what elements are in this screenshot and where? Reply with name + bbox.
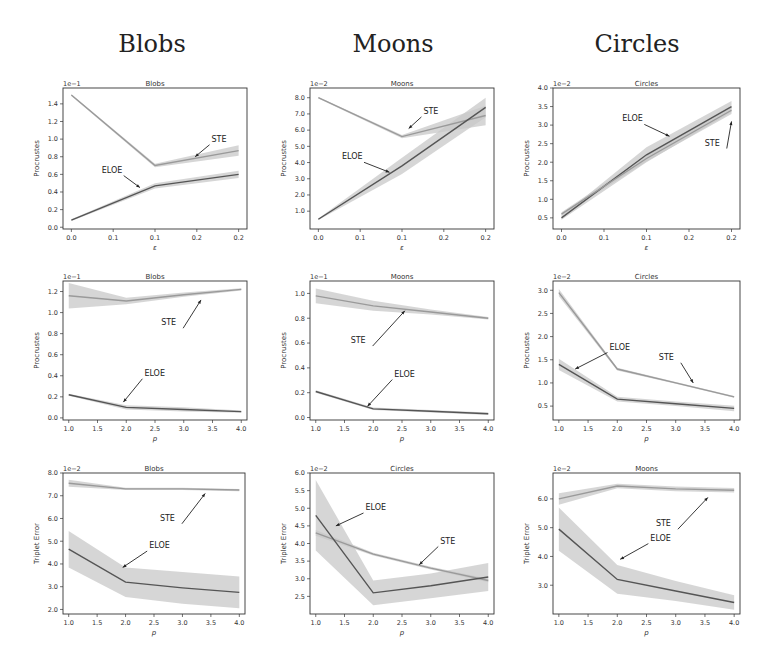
annotation-label-eloe: ELOE	[149, 541, 170, 550]
y-tick-label: 1.5	[538, 177, 548, 185]
y-tick-label: 6.0	[48, 515, 58, 523]
axis-offset-label: 1e−2	[310, 80, 328, 88]
series-line-ste	[71, 95, 238, 166]
x-tick-label: 2.5	[149, 619, 159, 627]
annotation-label-eloe: ELOE	[144, 369, 165, 378]
series-line-eloe	[559, 364, 734, 408]
confidence-band-eloe	[316, 390, 489, 415]
subplot-title: Blobs	[145, 273, 164, 281]
annotation-label-ste: STE	[705, 139, 720, 148]
y-axis-label: Procrustes	[33, 140, 41, 177]
axis-offset-label: 1e−2	[310, 465, 328, 473]
annotation-arrow	[575, 353, 607, 369]
x-tick-label: 2.0	[368, 425, 378, 433]
x-tick-label: 1.0	[311, 619, 321, 627]
axis-offset-label: 1e−2	[553, 273, 571, 281]
figure-grid: Blobs Moons Circles STEELOE0.00.10.10.20…	[0, 0, 781, 666]
x-tick-label: 0.0	[313, 234, 323, 242]
x-tick-label: 0.2	[439, 234, 449, 242]
y-axis-label: Procrustes	[523, 332, 531, 369]
confidence-band-eloe	[559, 359, 734, 411]
x-tick-label: 2.0	[612, 619, 622, 627]
x-tick-label: 3.0	[671, 619, 681, 627]
x-tick-label: 1.5	[92, 619, 102, 627]
y-tick-label: 0.4	[295, 364, 305, 372]
y-tick-label: 5.0	[48, 538, 58, 546]
y-tick-label: 3.5	[295, 557, 305, 565]
plot-area	[316, 480, 489, 605]
x-tick-label: 2.5	[641, 619, 651, 627]
y-tick-label: 3.0	[295, 575, 305, 583]
series-line-eloe	[69, 395, 242, 412]
x-tick-label: 4.0	[234, 619, 244, 627]
annotation-arrow	[368, 380, 393, 407]
x-tick-label: 4.0	[729, 425, 739, 433]
plot-area	[559, 289, 734, 411]
x-tick-label: 3.5	[206, 619, 216, 627]
annotation-label-ste: STE	[423, 107, 438, 116]
subplot-title: Circles	[635, 80, 659, 88]
y-axis-label: Triplet Error	[280, 523, 288, 565]
x-tick-label: 3.5	[700, 425, 710, 433]
annotation-arrow	[620, 544, 648, 560]
annotation-label-ste: STE	[440, 537, 455, 546]
x-tick-label: 1.0	[311, 425, 321, 433]
y-tick-label: 8.0	[48, 469, 58, 477]
y-tick-label: 1.4	[48, 100, 58, 108]
y-tick-label: 4.5	[295, 522, 305, 530]
axis-offset-label: 1e−2	[553, 80, 571, 88]
subplot-title: Circles	[390, 465, 414, 473]
y-axis-label: Procrustes	[280, 140, 288, 177]
x-tick-label: 2.5	[397, 619, 407, 627]
y-axis-label: Triplet Error	[523, 523, 531, 565]
annotation-label-ste: STE	[161, 318, 176, 327]
y-tick-label: 6.0	[295, 126, 305, 134]
annotation-arrow	[678, 497, 708, 529]
subplot-moons-r0: STEELOE0.00.10.10.20.21.02.03.04.05.06.0…	[280, 80, 494, 252]
x-tick-label: 4.0	[483, 425, 493, 433]
x-tick-label: 0.1	[150, 234, 160, 242]
annotation-arrow	[727, 121, 732, 148]
y-axis-label: Triplet Error	[33, 523, 41, 565]
annotation-label-eloe: ELOE	[102, 166, 123, 175]
annotation-arrow	[123, 379, 142, 402]
annotation-arrow	[336, 513, 364, 526]
y-tick-label: 3.0	[295, 175, 305, 183]
y-tick-label: 0.6	[48, 171, 58, 179]
y-tick-label: 4.0	[295, 159, 305, 167]
x-axis-label: ε	[400, 244, 404, 252]
x-tick-label: 3.0	[671, 425, 681, 433]
y-tick-label: 2.0	[538, 159, 548, 167]
y-tick-label: 7.0	[48, 492, 58, 500]
y-tick-label: 3.0	[538, 121, 548, 129]
subplot-title: Moons	[635, 465, 658, 473]
x-axis-label: p	[399, 629, 405, 637]
subplot-moons-r2: STEELOE1.01.52.02.53.03.54.03.04.05.06.0…	[523, 465, 740, 637]
y-tick-label: 4.0	[538, 84, 548, 92]
x-tick-label: 1.0	[554, 425, 564, 433]
y-tick-label: 0.6	[295, 339, 305, 347]
x-tick-label: 1.5	[92, 425, 102, 433]
y-tick-label: 0.2	[48, 206, 58, 214]
y-tick-label: 1.0	[295, 207, 305, 215]
y-tick-label: 1.5	[538, 356, 548, 364]
x-tick-label: 1.5	[583, 619, 593, 627]
subplot-title: Blobs	[145, 80, 164, 88]
annotation-label-eloe: ELOE	[394, 370, 415, 379]
annotation-label-ste: STE	[212, 135, 227, 144]
annotation-label-ste: STE	[659, 353, 674, 362]
x-tick-label: 4.0	[236, 425, 246, 433]
annotation-label-eloe: ELOE	[342, 152, 363, 161]
y-tick-label: 4.0	[48, 560, 58, 568]
y-tick-label: 3.0	[538, 287, 548, 295]
annotation-arrow	[419, 547, 438, 565]
y-tick-label: 0.8	[48, 330, 58, 338]
plot-area	[69, 283, 242, 413]
x-tick-label: 2.5	[641, 425, 651, 433]
y-tick-label: 1.0	[538, 196, 548, 204]
x-tick-label: 3.5	[454, 619, 464, 627]
y-tick-label: 0.0	[48, 414, 58, 422]
x-tick-label: 1.0	[554, 619, 564, 627]
x-tick-label: 3.0	[177, 619, 187, 627]
x-axis-label: p	[643, 629, 649, 637]
